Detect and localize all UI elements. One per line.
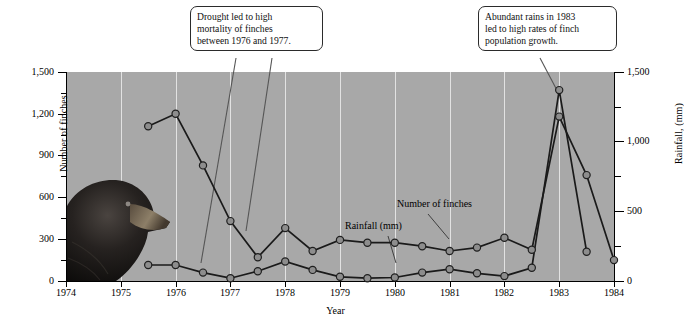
data-point (309, 266, 316, 273)
data-point (364, 275, 371, 282)
data-point (336, 273, 343, 280)
finches-inline-label: Number of finches (397, 198, 472, 209)
rains-callout-line-1: Abundant rains in 1983 (485, 11, 610, 23)
finches-label-leader (428, 214, 449, 239)
data-point (282, 225, 289, 232)
data-point (309, 247, 316, 254)
data-point (501, 273, 508, 280)
data-point (501, 234, 508, 241)
drought-callout: Drought led to high mortality of finches… (190, 6, 323, 51)
drought-leader-line-b (246, 58, 272, 231)
data-point (419, 243, 426, 250)
data-point (254, 254, 261, 261)
data-point (172, 110, 179, 117)
data-point (528, 246, 535, 253)
rainfall-inline-label: Rainfall (mm) (345, 220, 402, 231)
data-point (419, 269, 426, 276)
rains-callout-line-2: led to high rates of finch (485, 23, 610, 35)
data-point (364, 239, 371, 246)
data-point (336, 236, 343, 243)
data-point (145, 261, 152, 268)
drought-callout-line-1: Drought led to high (197, 11, 316, 23)
drought-leader-line-a (201, 58, 236, 263)
data-point (199, 269, 206, 276)
data-point (282, 258, 289, 265)
data-point (227, 275, 234, 282)
rains-callout: Abundant rains in 1983 led to high rates… (478, 6, 617, 51)
data-point (556, 87, 563, 94)
data-point (199, 162, 206, 169)
data-point (446, 247, 453, 254)
drought-callout-line-3: between 1976 and 1977. (197, 35, 316, 47)
rains-callout-line-3: population growth. (485, 35, 610, 47)
data-point (391, 239, 398, 246)
data-point (446, 266, 453, 273)
y-axis-right-title: Rainfall, (mm) (673, 64, 684, 204)
data-point (556, 113, 563, 120)
data-point (145, 123, 152, 130)
data-point (473, 244, 480, 251)
data-point (583, 248, 590, 255)
data-point (227, 218, 234, 225)
data-point (254, 268, 261, 275)
drought-callout-line-2: mortality of finches (197, 23, 316, 35)
data-point (528, 264, 535, 271)
data-point (583, 172, 590, 179)
data-point (172, 261, 179, 268)
data-point (610, 257, 617, 264)
data-point (391, 274, 398, 281)
data-point (473, 270, 480, 277)
